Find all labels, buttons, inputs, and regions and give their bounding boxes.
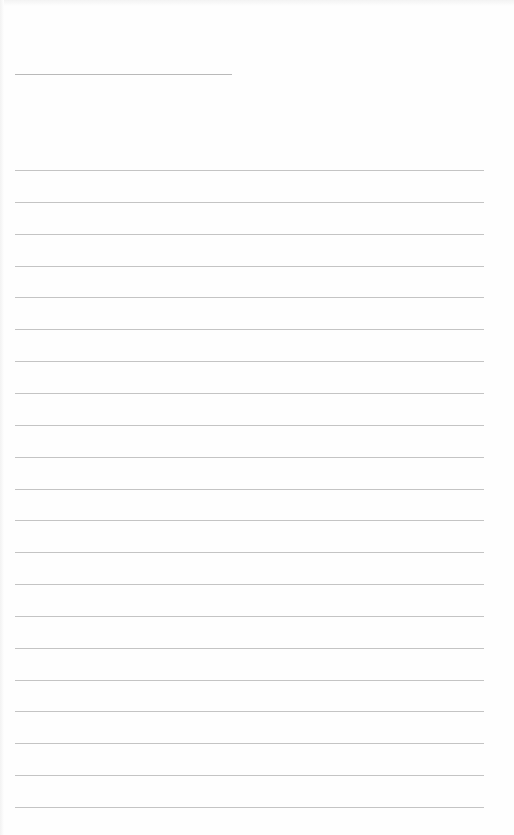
ruled-line [15, 552, 484, 553]
ruled-line [15, 297, 484, 298]
title-underline [15, 74, 232, 75]
ruled-line [15, 775, 484, 776]
ruled-line [15, 329, 484, 330]
lined-paper-page [0, 0, 514, 835]
ruled-line [15, 743, 484, 744]
ruled-line [15, 520, 484, 521]
ruled-line [15, 361, 484, 362]
ruled-line [15, 170, 484, 171]
ruled-line [15, 266, 484, 267]
ruled-line [15, 711, 484, 712]
ruled-line [15, 489, 484, 490]
ruled-line [15, 393, 484, 394]
ruled-line [15, 648, 484, 649]
ruled-line [15, 234, 484, 235]
ruled-line [15, 202, 484, 203]
ruled-line [15, 680, 484, 681]
ruled-line [15, 616, 484, 617]
ruled-line [15, 425, 484, 426]
ruled-line [15, 457, 484, 458]
ruled-line [15, 584, 484, 585]
ruled-line [15, 807, 484, 808]
left-edge-shadow [0, 0, 4, 835]
top-edge-shadow [0, 0, 514, 6]
